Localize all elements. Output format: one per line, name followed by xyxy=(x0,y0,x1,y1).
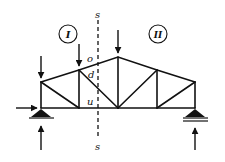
svg-text:II: II xyxy=(153,30,163,40)
section-label-top: s xyxy=(95,9,100,20)
member-label-u: u xyxy=(87,96,93,107)
diagonal-1 xyxy=(41,82,79,108)
section-label-bottom: s xyxy=(95,141,100,152)
svg-text:I: I xyxy=(65,29,71,40)
pin-support-icon xyxy=(31,109,51,117)
roller-support-icon xyxy=(185,109,205,117)
member-label-d: d xyxy=(88,69,94,80)
right-support xyxy=(183,109,208,150)
diagonal-3 xyxy=(118,70,157,108)
diagonal-d xyxy=(79,70,118,108)
member-label-o: o xyxy=(87,53,93,64)
truss xyxy=(41,57,195,108)
truss-diagram: s s I II o d u xyxy=(0,0,225,162)
left-support xyxy=(16,108,54,150)
region-II: II xyxy=(149,25,167,43)
region-I: I xyxy=(59,25,77,43)
diagonal-4 xyxy=(157,82,195,108)
